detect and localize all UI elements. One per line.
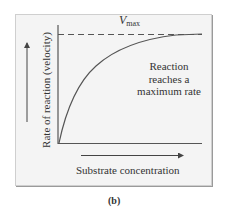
vmax-label: Vmax (119, 13, 140, 28)
y-axis-label: Rate of reaction (velocity) (40, 32, 52, 148)
x-axis-label: Substrate concentration (76, 164, 180, 176)
plot-area (0, 0, 225, 218)
figure-caption: (b) (108, 195, 120, 206)
annotation-text: Reaction reaches a maximum rate (128, 60, 210, 98)
